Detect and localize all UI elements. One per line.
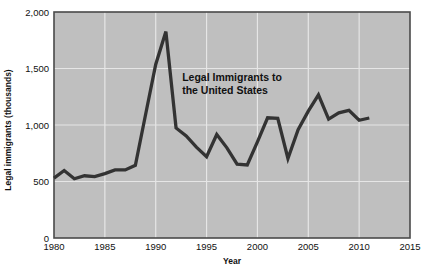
x-axis-title: Year: [223, 256, 242, 266]
y-tick-label: 1,000: [25, 120, 49, 131]
y-tick-label: 500: [33, 176, 49, 187]
x-tick-label: 2005: [298, 241, 319, 252]
x-tick-label: 1985: [94, 241, 115, 252]
x-tick-label: 2000: [247, 241, 268, 252]
y-axis-title: Legal immigrants (thousands): [3, 69, 13, 191]
immigration-line-chart: 05001,0001,5002,000 19801985199019952000…: [0, 0, 428, 279]
series-annotation-line-1: Legal Immigrants to: [182, 71, 282, 83]
x-tick-label: 2010: [349, 241, 370, 252]
chart-canvas: 05001,0001,5002,000 19801985199019952000…: [0, 0, 428, 279]
y-tick-label: 2,000: [25, 7, 49, 18]
x-tick-label: 1990: [145, 241, 166, 252]
x-tick-label: 1995: [196, 241, 217, 252]
x-tick-label: 2015: [399, 241, 420, 252]
x-tick-label: 1980: [43, 241, 64, 252]
y-tick-label: 1,500: [25, 63, 49, 74]
series-annotation-line-2: the United States: [182, 84, 268, 96]
